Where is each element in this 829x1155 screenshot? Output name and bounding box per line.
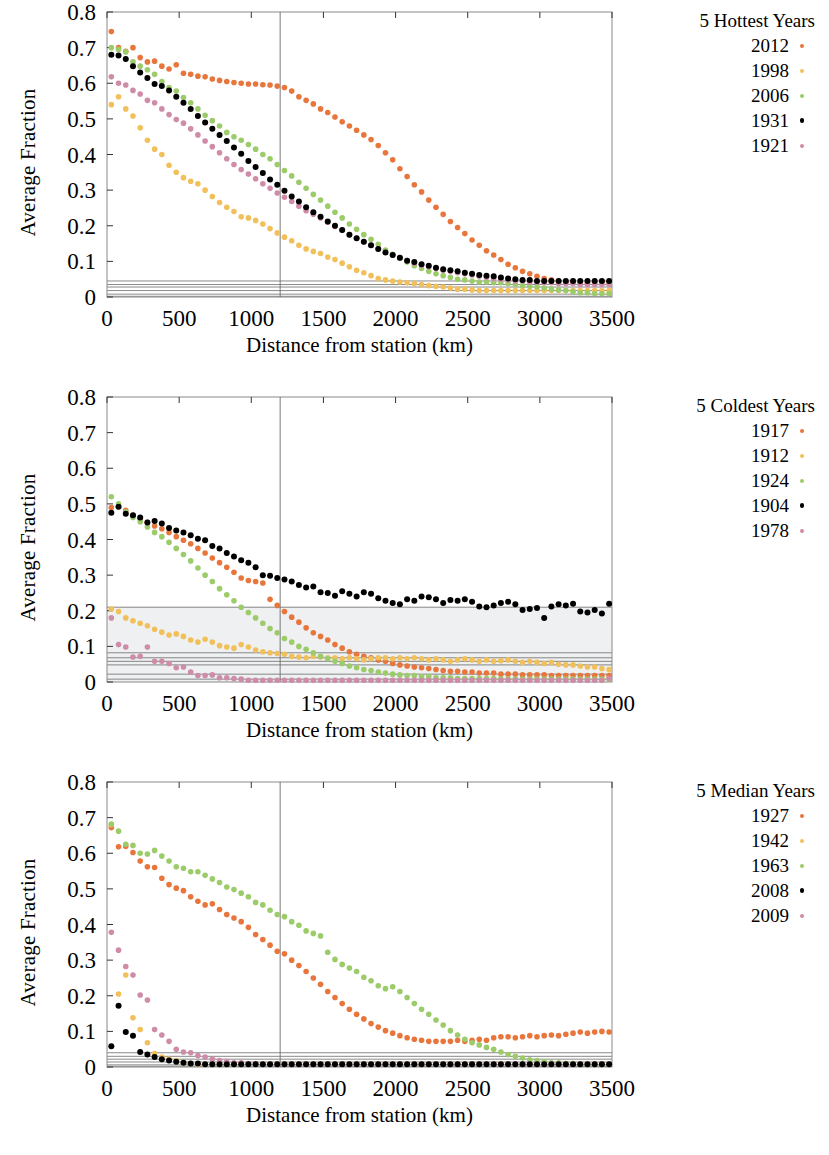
svg-text:2000: 2000 [373, 691, 419, 716]
svg-text:0: 0 [85, 1055, 97, 1080]
legend-item[interactable]: 1963 [640, 853, 829, 878]
legend-label: 1998 [751, 60, 789, 82]
series-2012 [109, 29, 612, 286]
legend-label: 1978 [751, 520, 789, 542]
legend-item[interactable]: 1924 [640, 468, 829, 493]
svg-text:3000: 3000 [517, 1076, 563, 1101]
legend-item[interactable]: 2012 [640, 33, 829, 58]
legend-label: 1912 [751, 445, 789, 467]
scatter-plot-median: 00.10.20.30.40.50.60.70.8050010001500200… [0, 770, 640, 1155]
legend-hottest: 5 Hottest Years 2012 1998 2006 1931 1921 [640, 0, 829, 385]
legend-item[interactable]: 1927 [640, 803, 829, 828]
svg-text:2500: 2500 [445, 691, 491, 716]
svg-text:3000: 3000 [517, 691, 563, 716]
svg-text:0.2: 0.2 [67, 984, 96, 1009]
svg-text:0.3: 0.3 [67, 178, 96, 203]
svg-text:500: 500 [162, 1076, 197, 1101]
svg-text:0.5: 0.5 [67, 877, 96, 902]
chart-panel-hottest: 00.10.20.30.40.50.60.70.8050010001500200… [0, 0, 829, 385]
chart-panel-median: 00.10.20.30.40.50.60.70.8050010001500200… [0, 770, 829, 1155]
series-1942 [109, 822, 612, 1067]
svg-text:1500: 1500 [300, 1076, 346, 1101]
legend-marker-icon [789, 914, 815, 918]
svg-text:0.4: 0.4 [67, 143, 96, 168]
legend-item[interactable]: 1978 [640, 518, 829, 543]
svg-text:2500: 2500 [445, 306, 491, 331]
svg-text:3000: 3000 [517, 306, 563, 331]
svg-text:0.6: 0.6 [67, 456, 96, 481]
legend-item[interactable]: 1921 [640, 133, 829, 158]
x-axis-label: Distance from station (km) [107, 1103, 612, 1128]
series-1927 [109, 825, 612, 1044]
legend-marker-icon [789, 454, 815, 458]
legend-label: 2006 [751, 85, 789, 107]
svg-text:2000: 2000 [373, 1076, 419, 1101]
legend-marker-icon [789, 429, 815, 433]
svg-text:0.4: 0.4 [67, 528, 96, 553]
legend-label: 2012 [751, 35, 789, 57]
y-axis-label: Average Fraction [16, 833, 41, 1033]
svg-text:0: 0 [101, 1076, 113, 1101]
svg-text:2000: 2000 [373, 306, 419, 331]
legend-item[interactable]: 1912 [640, 443, 829, 468]
svg-text:0.5: 0.5 [67, 492, 96, 517]
plot-area-median: 00.10.20.30.40.50.60.70.8050010001500200… [0, 770, 640, 1155]
svg-text:0.1: 0.1 [67, 634, 96, 659]
legend-marker-icon [789, 503, 815, 508]
svg-text:1000: 1000 [228, 1076, 274, 1101]
legend-label: 1963 [751, 855, 789, 877]
legend-median: 5 Median Years 1927 1942 1963 2008 2009 [640, 770, 829, 1155]
legend-label: 1931 [751, 110, 789, 132]
series-2009 [109, 930, 612, 1067]
legend-item[interactable]: 1998 [640, 58, 829, 83]
legend-title: 5 Median Years [640, 778, 829, 803]
svg-text:1000: 1000 [228, 691, 274, 716]
legend-marker-icon [789, 69, 815, 73]
legend-label: 2008 [751, 880, 789, 902]
legend-marker-icon [789, 814, 815, 818]
plot-area-hottest: 00.10.20.30.40.50.60.70.8050010001500200… [0, 0, 640, 385]
svg-text:0.2: 0.2 [67, 599, 96, 624]
svg-text:0.3: 0.3 [67, 563, 96, 588]
legend-label: 1921 [751, 135, 789, 157]
svg-text:0: 0 [101, 306, 113, 331]
series-1963 [109, 821, 612, 1067]
legend-label: 1927 [751, 805, 789, 827]
legend-marker-icon [789, 529, 815, 533]
legend-marker-icon [789, 118, 815, 123]
svg-text:0: 0 [85, 670, 97, 695]
legend-marker-icon [789, 94, 815, 98]
legend-item[interactable]: 2006 [640, 83, 829, 108]
legend-item[interactable]: 1904 [640, 493, 829, 518]
legend-item[interactable]: 1942 [640, 828, 829, 853]
svg-text:500: 500 [162, 691, 197, 716]
svg-text:0.1: 0.1 [67, 1019, 96, 1044]
legend-title: 5 Hottest Years [640, 8, 829, 33]
legend-marker-icon [789, 44, 815, 48]
series-2006 [109, 45, 612, 296]
scatter-plot-coldest: 00.10.20.30.40.50.60.70.8050010001500200… [0, 385, 640, 770]
series-1904 [108, 504, 612, 621]
legend-title: 5 Coldest Years [640, 393, 829, 418]
series-1921 [109, 74, 612, 287]
legend-item[interactable]: 2009 [640, 903, 829, 928]
svg-text:2500: 2500 [445, 1076, 491, 1101]
svg-text:0.8: 0.8 [67, 385, 96, 410]
legend-item[interactable]: 1931 [640, 108, 829, 133]
legend-marker-icon [789, 479, 815, 483]
svg-text:0.7: 0.7 [67, 36, 96, 61]
svg-text:1500: 1500 [300, 306, 346, 331]
svg-text:0.7: 0.7 [67, 806, 96, 831]
svg-text:0: 0 [101, 691, 113, 716]
legend-marker-icon [789, 839, 815, 843]
svg-text:0: 0 [85, 285, 97, 310]
legend-label: 1942 [751, 830, 789, 852]
scatter-plot-hottest: 00.10.20.30.40.50.60.70.8050010001500200… [0, 0, 640, 385]
svg-text:0.4: 0.4 [67, 913, 96, 938]
legend-label: 1924 [751, 470, 789, 492]
svg-text:500: 500 [162, 306, 197, 331]
legend-item[interactable]: 2008 [640, 878, 829, 903]
legend-item[interactable]: 1917 [640, 418, 829, 443]
legend-marker-icon [789, 864, 815, 868]
svg-text:3500: 3500 [589, 691, 635, 716]
